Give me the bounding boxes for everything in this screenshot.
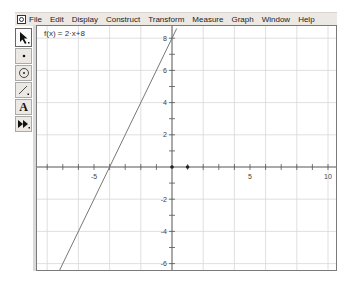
y-tick-label: ‑6 — [161, 260, 167, 267]
y-tick-label: ‑2 — [161, 196, 167, 203]
menu-construct[interactable]: Construct — [106, 15, 140, 24]
straightedge-tool[interactable] — [15, 82, 32, 98]
point-icon — [19, 51, 29, 61]
menu-graph[interactable]: Graph — [231, 15, 253, 24]
toolbox: A — [15, 28, 33, 132]
menu-display[interactable]: Display — [72, 15, 98, 24]
menu-measure[interactable]: Measure — [192, 15, 223, 24]
text-tool[interactable]: A — [15, 99, 32, 115]
graph-point — [186, 165, 190, 169]
menu-file[interactable]: File — [29, 15, 42, 24]
point-tool[interactable] — [15, 48, 32, 64]
graph-point — [170, 165, 174, 169]
y-tick-label: 2 — [163, 131, 167, 138]
menu-bar: File Edit Display Construct Transform Me… — [15, 12, 337, 26]
function-graph-line — [58, 29, 177, 271]
segment-icon — [17, 84, 30, 96]
arrow-tool[interactable] — [15, 28, 32, 47]
app-icon[interactable] — [17, 15, 26, 24]
text-icon: A — [19, 100, 28, 115]
x-tick-label: ‑5 — [91, 173, 97, 180]
menu-edit[interactable]: Edit — [50, 15, 64, 24]
graph-plot: ‑55108642‑2‑4‑6 — [37, 26, 337, 271]
x-tick-label: 10 — [324, 173, 332, 180]
menu-transform[interactable]: Transform — [148, 15, 184, 24]
menu-help[interactable]: Help — [298, 15, 314, 24]
custom-tool[interactable] — [15, 116, 32, 132]
y-tick-label: 4 — [163, 99, 167, 106]
custom-tools-icon — [17, 119, 30, 129]
sketch-canvas[interactable]: ‑55108642‑2‑4‑6 — [36, 25, 337, 271]
compass-icon — [18, 67, 30, 79]
y-tick-label: ‑4 — [161, 228, 167, 235]
y-tick-label: 6 — [163, 67, 167, 74]
menu-window[interactable]: Window — [262, 15, 290, 24]
x-tick-label: 5 — [248, 173, 252, 180]
y-tick-label: 8 — [163, 35, 167, 42]
compass-tool[interactable] — [15, 65, 32, 81]
arrow-icon — [18, 31, 30, 45]
function-label[interactable]: f(x) = 2·x+8 — [44, 29, 85, 38]
